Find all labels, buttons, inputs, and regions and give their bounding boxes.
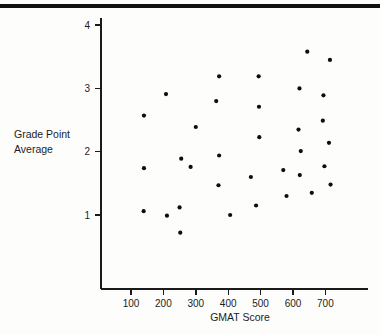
x-tick-label: 600	[285, 298, 302, 309]
data-point-group	[142, 50, 333, 235]
data-point	[189, 165, 193, 169]
data-point	[142, 209, 146, 213]
x-tick-label: 200	[155, 298, 172, 309]
x-tick-label: 700	[317, 298, 334, 309]
data-point	[142, 166, 146, 170]
data-point	[322, 164, 326, 168]
scatter-plot-figure: 1234 100200300400500600700 Grade Point A…	[0, 0, 380, 334]
data-point	[305, 50, 309, 54]
data-point	[298, 173, 302, 177]
scatter-chart-svg: 1234 100200300400500600700 Grade Point A…	[0, 0, 380, 334]
data-point	[297, 86, 301, 90]
x-tick-label: 400	[220, 298, 237, 309]
data-point	[165, 214, 169, 218]
data-point	[281, 168, 285, 172]
data-point	[299, 149, 303, 153]
data-point	[164, 92, 168, 96]
plot-area: 1234 100200300400500600700 Grade Point A…	[0, 0, 380, 334]
data-point	[257, 135, 261, 139]
y-axis-title-line1: Grade Point	[14, 128, 70, 140]
data-point	[214, 99, 218, 103]
data-point	[321, 119, 325, 123]
data-point	[179, 157, 183, 161]
y-tick-label: 3	[84, 83, 90, 94]
x-tick-label: 500	[252, 298, 269, 309]
data-point	[178, 231, 182, 235]
data-point	[321, 93, 325, 97]
y-axis-title-line2: Average	[14, 143, 53, 155]
data-point	[217, 153, 221, 157]
y-tick-label: 1	[84, 210, 90, 221]
y-tick-group: 1234	[84, 20, 101, 221]
data-point	[296, 127, 300, 131]
data-point	[328, 183, 332, 187]
x-tick-group: 100200300400500600700	[123, 289, 335, 309]
y-tick-label: 4	[84, 20, 90, 31]
x-axis-title: GMAT Score	[210, 311, 270, 323]
data-point	[254, 203, 258, 207]
data-point	[194, 125, 198, 129]
x-tick-label: 300	[187, 298, 204, 309]
data-point	[284, 194, 288, 198]
data-point	[142, 114, 146, 118]
data-point	[327, 141, 331, 145]
data-point	[257, 105, 261, 109]
data-point	[217, 74, 221, 78]
data-point	[310, 191, 314, 195]
y-tick-label: 2	[84, 146, 90, 157]
data-point	[328, 58, 332, 62]
data-point	[228, 213, 232, 217]
data-point	[257, 74, 261, 78]
data-point	[249, 175, 253, 179]
x-tick-label: 100	[123, 298, 140, 309]
data-point	[216, 183, 220, 187]
data-point	[178, 205, 182, 209]
